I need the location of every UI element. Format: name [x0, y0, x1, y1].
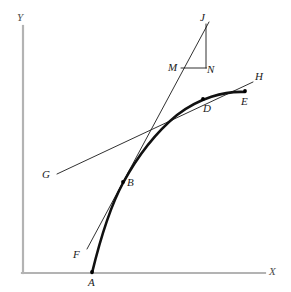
point-label-b: B	[127, 177, 134, 188]
secant-line-gh	[57, 82, 253, 174]
point-label-f: F	[73, 249, 80, 260]
diagram-canvas	[0, 0, 291, 292]
main-curve	[92, 92, 245, 273]
y-axis-label: Y	[17, 12, 23, 23]
point-label-e: E	[241, 96, 248, 107]
point-dot-d	[201, 97, 205, 101]
point-dot-a	[90, 270, 94, 274]
point-label-g: G	[42, 169, 50, 180]
point-label-d: D	[203, 103, 211, 114]
x-axis-label: X	[269, 266, 276, 277]
point-label-h: H	[255, 71, 263, 82]
point-label-m: M	[168, 62, 177, 73]
point-dot-e	[243, 89, 247, 93]
point-label-a: A	[88, 277, 95, 288]
geometry-diagram: Y X A B D E F G H J M N	[0, 0, 291, 292]
point-dot-b	[121, 180, 125, 184]
point-label-n: N	[207, 64, 214, 75]
tangent-line-fj	[87, 22, 209, 249]
point-label-j: J	[200, 12, 205, 23]
